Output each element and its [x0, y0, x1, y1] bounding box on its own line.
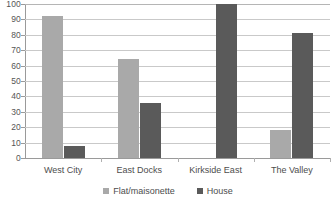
y-axis-tick-label: 10: [1, 139, 21, 148]
bar: [118, 59, 139, 158]
bar: [270, 130, 291, 158]
bar: [216, 4, 237, 158]
y-axis-tick-mark: [21, 81, 25, 82]
y-axis-tick-mark: [21, 143, 25, 144]
y-axis-tick-label: 60: [1, 62, 21, 71]
bar-group: [178, 4, 254, 158]
y-axis-tick-label: 100: [1, 0, 21, 9]
x-axis-category-label: East Docks: [101, 164, 177, 176]
y-axis-tick-label: 30: [1, 108, 21, 117]
y-axis-tick-label: 0: [1, 154, 21, 163]
legend-item[interactable]: House: [197, 186, 233, 196]
bar-group: [254, 4, 330, 158]
y-axis-tick-mark: [21, 35, 25, 36]
bar-group: [25, 4, 101, 158]
y-axis-tick-label: 20: [1, 123, 21, 132]
y-axis-tick-mark: [21, 4, 25, 5]
y-axis-tick-mark: [21, 158, 25, 159]
bar: [64, 146, 85, 158]
y-axis-tick-mark: [21, 66, 25, 67]
y-axis-tick-label: 90: [1, 15, 21, 24]
plot-area: [25, 4, 330, 158]
x-axis-category-labels: West CityEast DocksKirkside EastThe Vall…: [25, 164, 330, 180]
x-axis-category-label: West City: [25, 164, 101, 176]
y-axis-tick-mark: [21, 112, 25, 113]
bar: [42, 16, 63, 158]
y-axis-tick-mark: [21, 96, 25, 97]
y-axis-tick-mark: [21, 19, 25, 20]
legend-label: House: [207, 186, 233, 196]
x-axis-tick-mark: [101, 158, 102, 162]
legend-swatch-icon: [197, 188, 203, 194]
bar: [140, 103, 161, 158]
x-axis-tick-mark: [254, 158, 255, 162]
bar-chart: 0102030405060708090100 West CityEast Doc…: [0, 0, 336, 203]
chart-legend: Flat/maisonetteHouse: [0, 184, 336, 198]
legend-swatch-icon: [103, 188, 109, 194]
y-axis-tick-labels: 0102030405060708090100: [0, 0, 21, 203]
legend-label: Flat/maisonette: [113, 186, 175, 196]
x-axis-tick-mark: [178, 158, 179, 162]
x-axis-category-label: The Valley: [254, 164, 330, 176]
y-axis-tick-label: 40: [1, 92, 21, 101]
bar-group: [101, 4, 177, 158]
x-axis-tick-mark: [330, 158, 331, 162]
y-axis-tick-label: 70: [1, 46, 21, 55]
y-axis-tick-label: 50: [1, 77, 21, 86]
y-axis-tick-label: 80: [1, 31, 21, 40]
bar: [292, 33, 313, 158]
y-axis-tick-mark: [21, 127, 25, 128]
x-axis-category-label: Kirkside East: [178, 164, 254, 176]
y-axis-tick-mark: [21, 50, 25, 51]
legend-item[interactable]: Flat/maisonette: [103, 186, 175, 196]
